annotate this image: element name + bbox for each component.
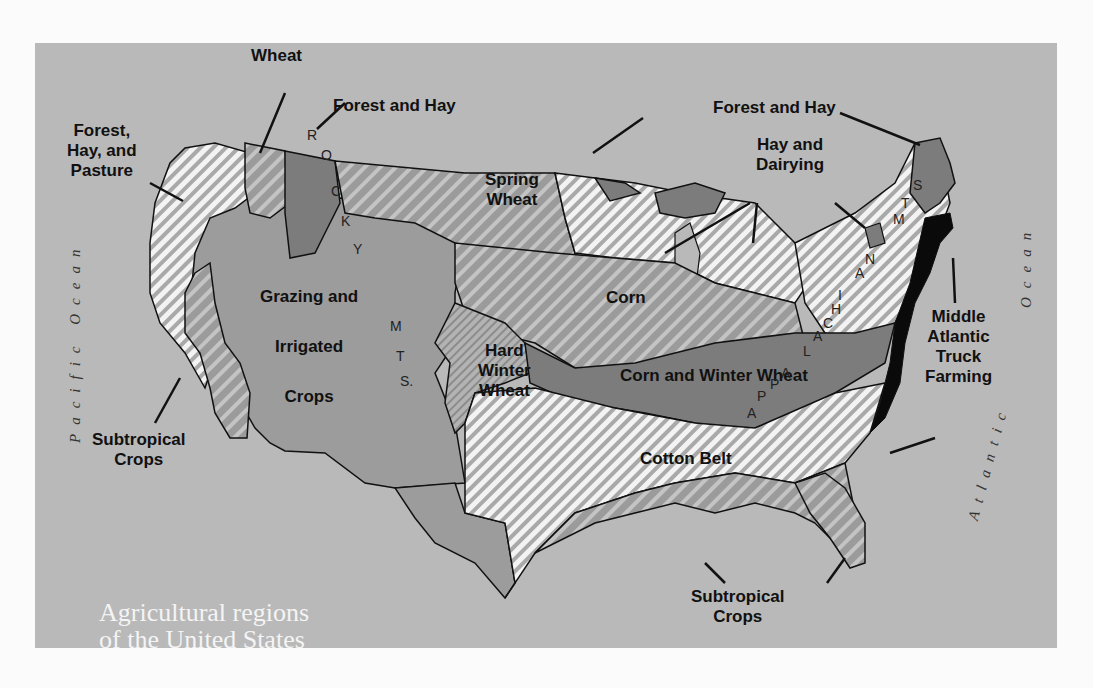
label-appalachian-4: A	[781, 365, 790, 381]
label-appalachian-11: N	[865, 251, 875, 267]
region-forest-hay-mw2	[655, 183, 725, 218]
label-corn: Corn	[606, 288, 646, 308]
label-forest-hay-ne: Forest and Hay	[713, 98, 836, 118]
label-appalachian-6: A	[813, 328, 822, 344]
label-appalachian-t: T	[901, 195, 910, 211]
label-appalachian-s: S	[913, 177, 922, 193]
label-rocky-r: R	[307, 127, 317, 143]
label-appalachian-10: A	[855, 265, 864, 281]
label-spring-wheat: Spring Wheat	[485, 170, 539, 210]
label-hard-winter-wheat: Hard Winter Wheat	[478, 341, 531, 401]
map-title: Agricultural regions of the United State…	[99, 599, 309, 648]
label-hay-dairying: Hay and Dairying	[756, 135, 824, 175]
label-appalachian-8: H	[831, 301, 841, 317]
label-appalachian-3: P	[770, 376, 779, 392]
label-atlantic-ocean-word: Ocean	[1018, 224, 1035, 308]
label-rocky-m: M	[390, 318, 402, 334]
label-subtropical-west: Subtropical Crops	[92, 430, 186, 470]
label-grazing-irrigated: Grazing and Irrigated Crops	[260, 272, 358, 422]
label-rocky-c: C	[331, 183, 341, 199]
label-rocky-y: Y	[353, 241, 362, 257]
map-title-line2: of the United States	[99, 625, 305, 648]
label-appalachian-9: I	[838, 287, 842, 303]
map-panel: Wheat Forest and Hay Forest, Hay, and Pa…	[35, 43, 1057, 648]
label-rocky-t: T	[396, 348, 405, 364]
label-appalachian-m: M	[893, 211, 905, 227]
region-florida	[795, 473, 865, 568]
label-appalachian-7: C	[823, 315, 833, 331]
label-wheat-nw: Wheat	[251, 46, 302, 66]
label-appalachian-5: L	[803, 343, 811, 359]
label-pacific-ocean: Pacific Ocean	[67, 241, 84, 443]
label-corn-winter-wheat: Corn and Winter Wheat	[620, 366, 808, 386]
region-wheat-nw	[245, 143, 290, 218]
label-rocky-k: K	[341, 213, 350, 229]
label-appalachian-1: A	[747, 405, 756, 421]
label-rocky-o: O	[321, 147, 332, 163]
label-forest-hay-pasture: Forest, Hay, and Pasture	[67, 121, 137, 181]
label-middle-atlantic: Middle Atlantic Truck Farming	[925, 307, 992, 387]
label-cotton-belt: Cotton Belt	[640, 449, 732, 469]
label-subtropical-south: Subtropical Crops	[691, 587, 785, 627]
label-forest-hay-nw: Forest and Hay	[333, 96, 456, 116]
map-title-line1: Agricultural regions	[99, 598, 309, 627]
us-agricultural-map	[35, 43, 1057, 648]
label-rocky-s: S.	[400, 373, 413, 389]
label-appalachian-2: P	[757, 388, 766, 404]
